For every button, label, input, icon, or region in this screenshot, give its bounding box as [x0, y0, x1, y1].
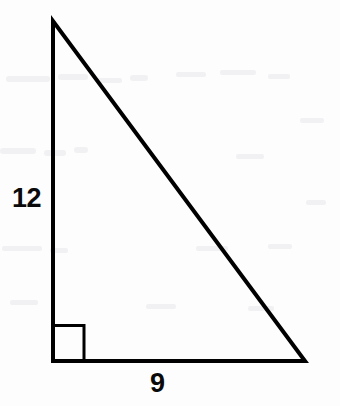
vertical-leg-length-label: 12 — [12, 185, 41, 212]
horizontal-leg-length-label: 9 — [150, 370, 165, 397]
right-triangle-figure — [0, 0, 340, 406]
right-angle-marker-icon — [53, 326, 84, 361]
figure-canvas: 12 9 — [0, 0, 340, 406]
triangle-outline — [53, 21, 305, 361]
